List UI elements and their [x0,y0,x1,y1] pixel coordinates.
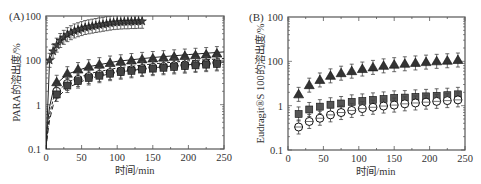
figure: 0501001502002500.11100100(A)时间/minPARA的溶… [0,0,481,184]
square-marker [171,63,178,70]
square-marker [192,62,199,69]
triangle-marker [294,89,304,98]
triangle-marker [442,56,452,64]
x-tick-label: 250 [216,152,232,163]
x-tick-label: 150 [386,153,402,164]
square-marker [139,66,146,73]
x-tick-label: 100 [351,153,367,164]
x-tick-label: 0 [43,152,48,163]
y-tick-label: 100 [267,56,283,67]
x-tick-label: 50 [318,153,329,164]
triangle-marker [315,75,325,84]
triangle-marker [368,62,378,71]
chart-panel-a: 0501001502002500.11100100(A)时间/minPARA的溶… [9,10,232,176]
plot-area [45,14,224,149]
square-marker [203,61,210,68]
y-axis-title: PARA的溶出度/% [10,43,22,122]
square-marker [64,82,71,89]
square-marker [213,60,220,67]
square-marker [75,78,82,85]
triangle-marker [432,56,442,65]
x-axis-title: 时间/min [115,164,155,176]
y-tick-label: 0.1 [270,145,283,156]
x-tick-label: 200 [181,152,197,163]
triangle-marker [400,59,410,68]
y-tick-label: 1 [36,100,41,111]
triangle-marker [357,64,367,73]
triangle-marker [304,80,314,89]
plot-area [294,53,463,134]
triangle-marker [347,66,357,75]
panel-label: (B) [249,11,264,24]
triangle-marker [410,58,420,66]
square-marker [295,110,302,117]
y-tick-label: 100 [25,11,41,22]
square-marker [160,64,167,71]
x-tick-label: 50 [76,152,87,163]
square-marker [85,74,92,81]
y-tick-label: 100 [267,12,283,23]
y-axis-title: Eudragit®S 100的溶出度/% [254,23,266,143]
y-tick-label: 0.1 [28,144,41,155]
x-tick-label: 150 [145,152,161,163]
triangle-marker [453,55,463,64]
square-marker [316,103,323,110]
x-tick-label: 250 [457,153,473,164]
x-tick-label: 0 [285,153,290,164]
x-axis-title: 时间/min [356,165,396,177]
triangle-marker [336,68,346,77]
triangle-marker [421,57,431,66]
square-marker [181,63,188,70]
square-marker [128,67,135,74]
chart-svg: 0501001502002500.11100100(A)时间/minPARA的溶… [0,0,481,184]
y-tick-label: 1 [278,101,283,112]
square-marker [149,65,156,72]
square-marker [117,69,124,76]
fit-long-dash [46,62,224,149]
chart-panel-b: 0501001502002500.11100100(B)时间/minEudrag… [249,11,473,177]
y-tick-label: 100 [25,55,41,66]
triangle-marker [389,60,399,69]
triangle-marker [379,61,389,70]
square-marker [53,91,60,98]
x-tick-label: 100 [109,152,125,163]
square-marker [306,106,313,113]
panel-label: (A) [9,10,25,23]
square-marker [96,72,103,79]
x-tick-label: 200 [422,153,438,164]
square-marker [327,101,334,108]
triangle-marker [325,71,335,80]
square-marker [107,70,114,77]
